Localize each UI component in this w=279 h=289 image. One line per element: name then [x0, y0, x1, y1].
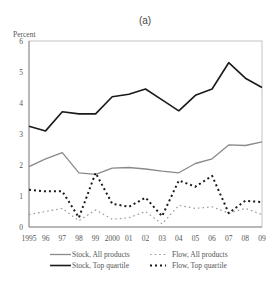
- y-tick-label: 3: [19, 130, 23, 139]
- series-line-1: [29, 142, 262, 175]
- y-tick-label: 6: [19, 37, 23, 46]
- x-tick-label: 96: [42, 234, 50, 243]
- x-tick-label: 05: [192, 234, 200, 243]
- y-tick-label: 2: [19, 161, 23, 170]
- x-tick-label: 2000: [105, 234, 120, 243]
- x-tick-label: 06: [208, 234, 216, 243]
- chart-title: (a): [139, 15, 151, 26]
- x-tick-labels: 1995969798992000010203040506070809: [22, 234, 267, 243]
- y-axis-label: Percent: [13, 30, 36, 39]
- series-line-2: [29, 63, 262, 131]
- y-tick-label: 4: [19, 99, 23, 108]
- line-chart: (a) Percent 0123456 19959697989920000102…: [0, 0, 279, 289]
- series-lines: [29, 63, 262, 224]
- x-tick-label: 97: [59, 234, 67, 243]
- legend-label: Flow, All products: [172, 250, 228, 259]
- x-tick-label: 08: [242, 234, 250, 243]
- x-tick-label: 01: [125, 234, 133, 243]
- x-tick-label: 07: [225, 234, 233, 243]
- y-tick-label: 0: [19, 223, 23, 232]
- x-tick-label: 02: [142, 234, 150, 243]
- x-tick-label: 99: [92, 234, 100, 243]
- x-tick-label: 98: [75, 234, 83, 243]
- legend: Stock, All productsStock, Top quartileFl…: [50, 250, 228, 270]
- x-tick-label: 09: [258, 234, 266, 243]
- legend-label: Flow, Top quartile: [172, 261, 228, 270]
- y-tick-labels: 0123456: [19, 37, 23, 232]
- x-tick-label: 04: [175, 234, 183, 243]
- series-line-4: [29, 173, 262, 218]
- x-tick-label: 03: [158, 234, 166, 243]
- x-tick-label: 1995: [22, 234, 37, 243]
- legend-label: Stock, All products: [72, 250, 130, 259]
- y-tick-label: 1: [19, 192, 23, 201]
- y-tick-label: 5: [19, 68, 23, 77]
- legend-label: Stock, Top quartile: [72, 261, 130, 270]
- plot-frame: [29, 41, 262, 227]
